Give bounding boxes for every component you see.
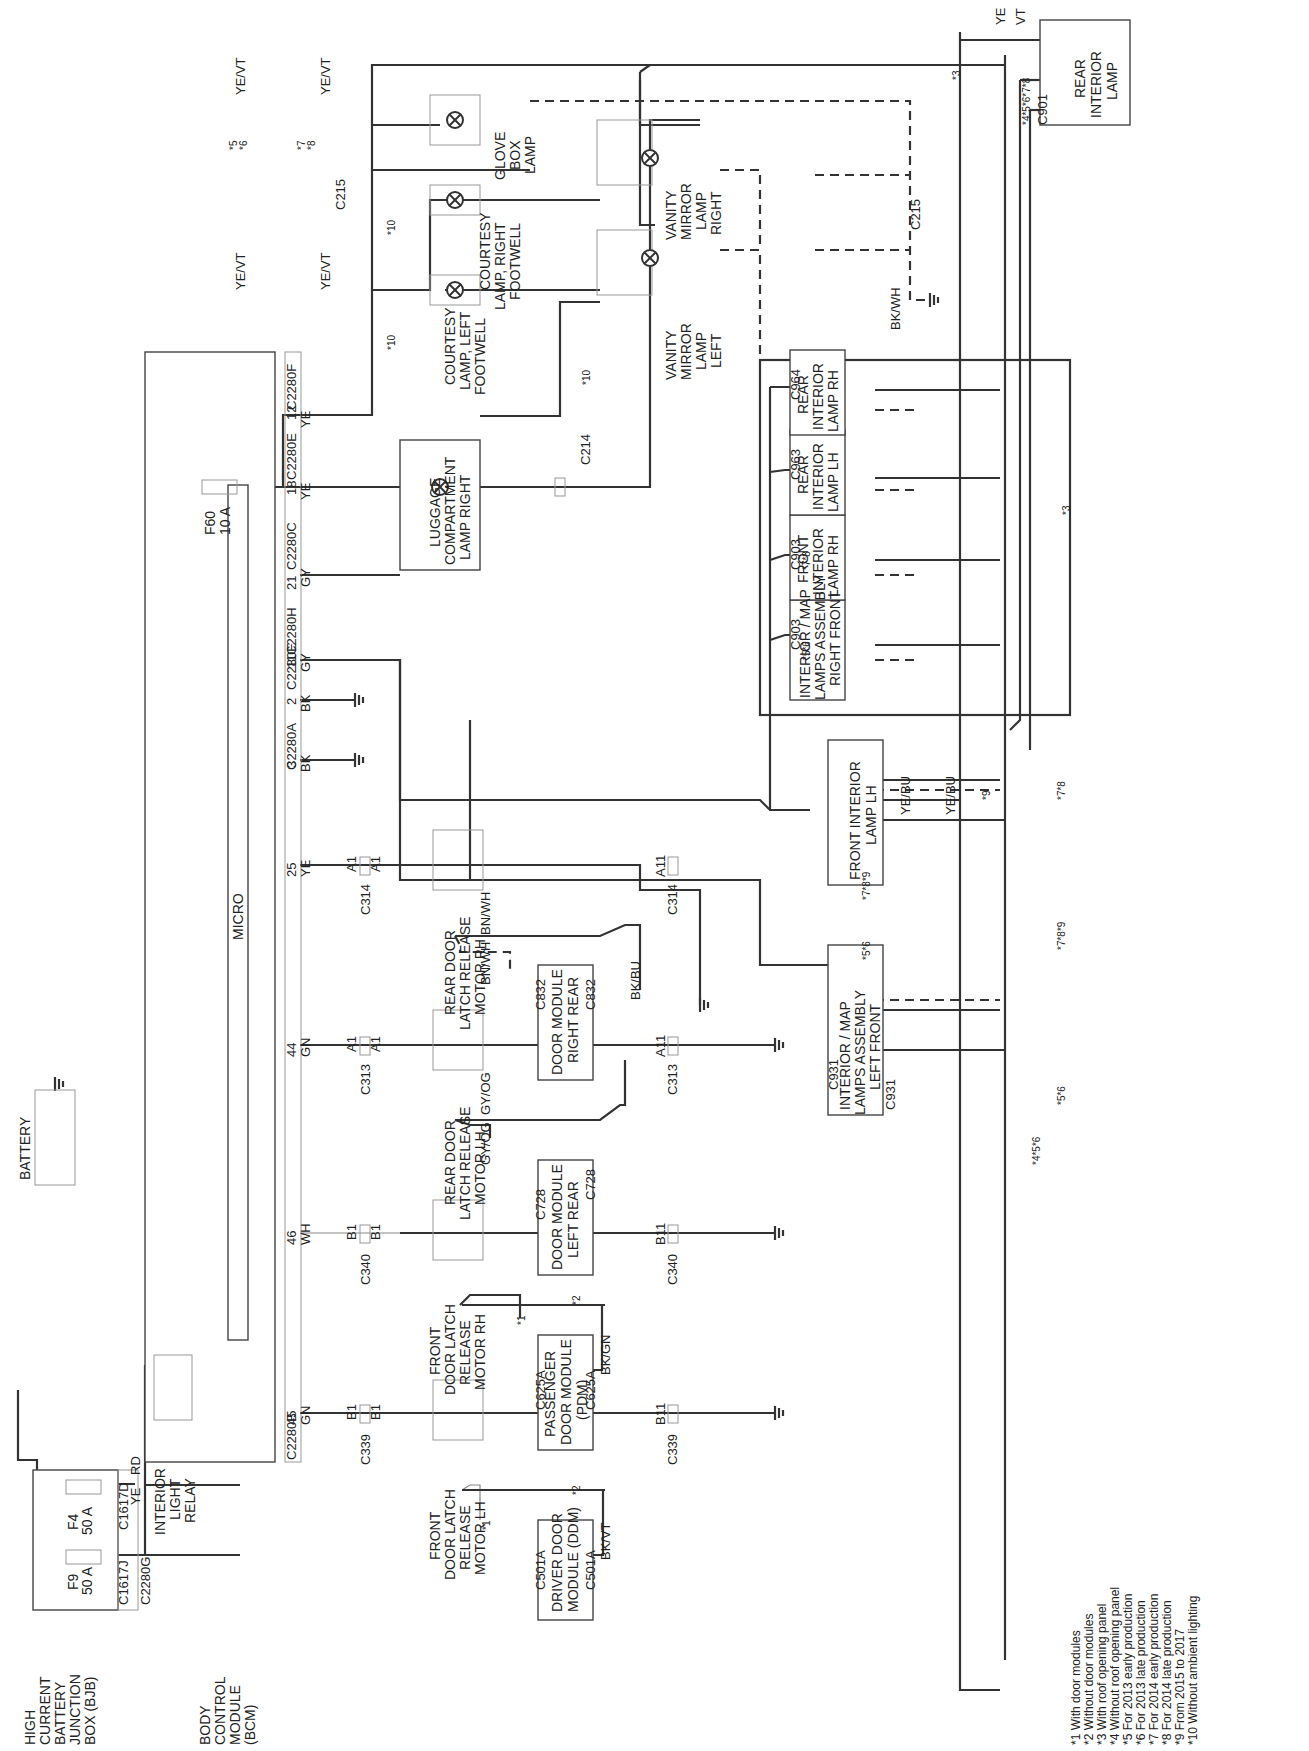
svg-text:LAMP: LAMP — [693, 332, 709, 370]
svg-text:GY/OG: GY/OG — [478, 1122, 493, 1165]
svg-text:YE: YE — [298, 859, 313, 877]
front-latch-rh-label: FRONT — [427, 1326, 443, 1375]
svg-text:GY: GY — [298, 568, 313, 587]
svg-text:C339: C339 — [358, 1434, 373, 1465]
bulb-icon — [447, 282, 463, 298]
svg-text:*7*8: *7*8 — [801, 551, 812, 570]
svg-text:YE/VT: YE/VT — [318, 57, 333, 95]
svg-text:C901: C901 — [1035, 94, 1050, 125]
glove-box-label: GLOVE — [492, 132, 508, 180]
svg-text:YE: YE — [298, 482, 313, 500]
svg-text:*5*6: *5*6 — [801, 641, 812, 660]
svg-text:RD: RD — [128, 1456, 143, 1475]
svg-text:C314: C314 — [358, 884, 373, 915]
svg-text:LAMP: LAMP — [1104, 62, 1120, 100]
svg-text:INTERIOR: INTERIOR — [1088, 51, 1104, 118]
vanity-right-label: VANITY — [663, 190, 679, 240]
svg-text:B1: B1 — [344, 1404, 359, 1420]
svg-text:GN: GN — [298, 1406, 313, 1426]
svg-text:GY/OG: GY/OG — [478, 1072, 493, 1115]
svg-text:CONTROL: CONTROL — [212, 1676, 228, 1745]
rear-latch-lh-label: REAR DOOR — [442, 1120, 458, 1205]
legend-item: *4 Without roof opening panel — [1108, 1587, 1122, 1745]
svg-text:GY: GY — [298, 653, 313, 672]
svg-text:LAMP: LAMP — [522, 136, 538, 174]
legend-item: *8 For 2014 late production — [1160, 1600, 1174, 1745]
svg-text:DOOR MODULE: DOOR MODULE — [558, 1339, 574, 1445]
svg-text:50 A: 50 A — [79, 1566, 95, 1595]
svg-text:CURRENT: CURRENT — [37, 1676, 53, 1745]
svg-text:C313: C313 — [358, 1064, 373, 1095]
svg-text:MODULE (DDM): MODULE (DDM) — [565, 1507, 581, 1612]
svg-text:A1: A1 — [368, 1036, 383, 1052]
svg-text:*7*8: *7*8 — [1056, 781, 1067, 800]
svg-text:*3: *3 — [951, 70, 962, 80]
legend-item: *1 With door modules — [1069, 1630, 1083, 1745]
svg-text:MIRROR: MIRROR — [678, 323, 694, 380]
svg-text:MOTOR LH: MOTOR LH — [472, 1501, 488, 1575]
svg-text:LIGHT: LIGHT — [167, 1478, 183, 1520]
svg-text:DOOR LATCH: DOOR LATCH — [442, 1489, 458, 1580]
svg-text:A1: A1 — [344, 856, 359, 872]
svg-text:YE: YE — [298, 410, 313, 428]
svg-text:*10: *10 — [386, 335, 397, 350]
svg-text:RELAY: RELAY — [182, 1477, 198, 1523]
legend-item: *10 Without ambient lighting — [1186, 1596, 1200, 1745]
svg-text:MOTOR RH: MOTOR RH — [472, 1314, 488, 1390]
svg-text:44: 44 — [284, 1043, 299, 1057]
svg-text:MIRROR: MIRROR — [678, 183, 694, 240]
ground-icon — [930, 293, 938, 307]
svg-text:(BCM): (BCM) — [242, 1705, 258, 1745]
svg-text:YE/BU: YE/BU — [943, 776, 958, 815]
courtesy-right-label: COURTESY — [477, 212, 493, 290]
svg-text:25: 25 — [284, 863, 299, 877]
svg-text:BN/WH: BN/WH — [478, 892, 493, 935]
svg-text:*1: *1 — [516, 1315, 527, 1325]
front-int-lh-label: FRONT INTERIOR — [847, 761, 863, 880]
svg-text:B11: B11 — [653, 1403, 668, 1425]
svg-text:18: 18 — [284, 481, 299, 495]
svg-text:RIGHT: RIGHT — [708, 191, 724, 235]
svg-text:YE/VT: YE/VT — [233, 252, 248, 290]
svg-text:A11: A11 — [653, 855, 668, 877]
svg-text:LEFT FRONT: LEFT FRONT — [867, 1003, 883, 1090]
svg-text:C215: C215 — [908, 199, 923, 230]
ground-icon — [355, 693, 363, 707]
ddm-label: DRIVER DOOR — [549, 1513, 565, 1612]
wire-ye-vt-top — [283, 65, 1005, 487]
dm-left-rear-label: DOOR MODULE — [549, 1164, 565, 1270]
svg-text:LAMP LH: LAMP LH — [863, 785, 879, 845]
svg-text:BATTERY: BATTERY — [52, 1681, 68, 1745]
svg-text:FOOTWELL: FOOTWELL — [507, 223, 523, 300]
front-latch-lh-label: FRONT — [427, 1511, 443, 1560]
svg-text:YE: YE — [128, 1487, 143, 1505]
svg-text:C339: C339 — [665, 1434, 680, 1465]
svg-text:DOOR LATCH: DOOR LATCH — [442, 1304, 458, 1395]
svg-text:C832: C832 — [533, 979, 548, 1010]
svg-text:C728: C728 — [533, 1189, 548, 1220]
svg-text:INTERIOR: INTERIOR — [810, 528, 826, 595]
battery-box[interactable] — [35, 1090, 75, 1185]
svg-text:B1: B1 — [368, 1224, 383, 1240]
svg-text:21: 21 — [284, 576, 299, 590]
courtesy-left-label: COURTESY — [442, 307, 458, 385]
svg-text:LAMPS ASSEMBLY: LAMPS ASSEMBLY — [852, 989, 868, 1115]
svg-text:*7*8*9: *7*8*9 — [861, 871, 872, 900]
svg-text:10 A: 10 A — [217, 506, 233, 535]
svg-text:YE/BU: YE/BU — [898, 776, 913, 815]
relay-label: INTERIOR — [152, 1468, 168, 1535]
svg-text:C340: C340 — [665, 1254, 680, 1285]
legend-item: *3 With roof opening panel — [1095, 1604, 1109, 1745]
svg-text:C2280H: C2280H — [284, 607, 299, 655]
svg-text:45: 45 — [284, 1411, 299, 1425]
svg-text:BK/WH: BK/WH — [888, 287, 903, 330]
svg-text:C964: C964 — [788, 369, 803, 400]
svg-text:*4*5*6*7*8: *4*5*6*7*8 — [1021, 77, 1032, 125]
svg-text:*10: *10 — [581, 370, 592, 385]
svg-text:B1: B1 — [344, 1224, 359, 1240]
svg-text:LAMP RH: LAMP RH — [825, 370, 841, 432]
svg-text:C2280G: C2280G — [138, 1557, 153, 1605]
svg-text:2: 2 — [284, 698, 299, 705]
svg-text:LAMP, RIGHT: LAMP, RIGHT — [492, 222, 508, 310]
svg-text:BK/VT: BK/VT — [598, 1522, 613, 1560]
